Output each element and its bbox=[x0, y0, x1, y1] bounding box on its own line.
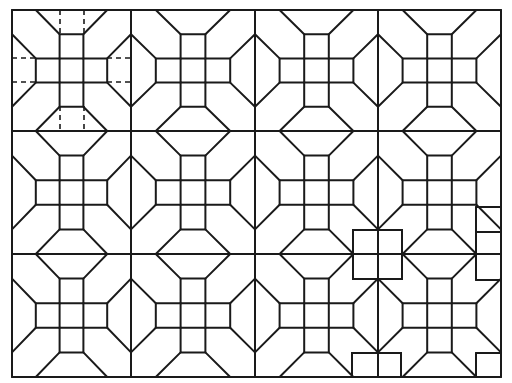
diagonal-line bbox=[83, 10, 107, 34]
diagonal-line bbox=[452, 352, 477, 377]
cross-shape bbox=[280, 34, 354, 107]
diagonal-line bbox=[476, 205, 501, 230]
diagonal-line bbox=[353, 34, 378, 58]
diagonal-line bbox=[83, 107, 107, 131]
diagonal-line bbox=[378, 156, 403, 181]
diagonal-line bbox=[131, 328, 156, 353]
diagonal-line bbox=[255, 205, 280, 230]
diagonal-line bbox=[403, 352, 428, 377]
diagonal-line bbox=[107, 34, 131, 58]
diagonal-line bbox=[36, 107, 60, 131]
tile-cell bbox=[255, 131, 378, 254]
diagonal-line bbox=[476, 279, 501, 304]
diagonal-line bbox=[476, 34, 501, 58]
cross-shape bbox=[403, 34, 477, 107]
tile-cell bbox=[12, 10, 131, 131]
cross-shape bbox=[156, 34, 230, 107]
diagonal-line bbox=[12, 83, 36, 107]
diagonal-line bbox=[378, 34, 403, 58]
diagonal-line bbox=[353, 205, 378, 230]
diagonal-line bbox=[280, 254, 305, 279]
diagonal-line bbox=[403, 10, 428, 34]
cross-shape bbox=[280, 156, 354, 230]
diagonal-line bbox=[12, 328, 36, 353]
diagonal-line bbox=[83, 131, 107, 156]
cross-shape bbox=[403, 279, 477, 353]
diagonal-line bbox=[378, 83, 403, 107]
diagonal-line bbox=[131, 205, 156, 230]
cross-shape bbox=[36, 279, 107, 353]
diagonal-line bbox=[205, 254, 230, 279]
diagonal-line bbox=[280, 229, 305, 254]
diagonal-line bbox=[255, 279, 280, 304]
diagonal-line bbox=[12, 156, 36, 181]
cross-shape bbox=[280, 279, 354, 353]
diagonal-line bbox=[131, 156, 156, 181]
tile-cell bbox=[12, 254, 131, 377]
diagonal-line bbox=[378, 328, 403, 353]
diagonal-line bbox=[230, 279, 255, 304]
diagonal-line bbox=[156, 107, 181, 131]
diagonal-line bbox=[36, 10, 60, 34]
tile-cell bbox=[378, 131, 501, 254]
diagonal-line bbox=[403, 107, 428, 131]
tile-cell bbox=[255, 254, 378, 377]
extra-square bbox=[352, 353, 401, 377]
tile-cell bbox=[378, 254, 501, 377]
diagonal-line bbox=[329, 107, 354, 131]
diagonal-line bbox=[280, 131, 305, 156]
diagonal-line bbox=[329, 229, 354, 254]
diagonal-line bbox=[83, 254, 107, 279]
diagonal-line bbox=[255, 328, 280, 353]
diagonal-line bbox=[36, 352, 60, 377]
diagonal-line bbox=[353, 83, 378, 107]
diagonal-line bbox=[476, 156, 501, 181]
diagonal-line bbox=[12, 205, 36, 230]
diagonal-line bbox=[353, 279, 378, 304]
cross-shape bbox=[36, 156, 107, 230]
diagonal-line bbox=[230, 328, 255, 353]
diagonal-line bbox=[280, 352, 305, 377]
diagonal-line bbox=[107, 156, 131, 181]
tile-cell bbox=[131, 131, 255, 254]
tile-cell bbox=[12, 131, 131, 254]
diagonal-line bbox=[403, 254, 428, 279]
cross-motifs bbox=[12, 10, 501, 377]
diagonal-line bbox=[230, 34, 255, 58]
diagonal-line bbox=[452, 229, 477, 254]
diagonal-line bbox=[280, 10, 305, 34]
dashed-guide-lines bbox=[12, 10, 131, 131]
diagonal-line bbox=[156, 131, 181, 156]
diagonal-line bbox=[131, 279, 156, 304]
diagonal-line bbox=[205, 107, 230, 131]
diagonal-line bbox=[378, 205, 403, 230]
diagonal-line bbox=[36, 254, 60, 279]
diagonal-line bbox=[107, 205, 131, 230]
diagonal-line bbox=[403, 229, 428, 254]
diagonal-line bbox=[255, 34, 280, 58]
diagonal-line bbox=[107, 83, 131, 107]
diagonal-line bbox=[452, 107, 477, 131]
diagonal-line bbox=[205, 229, 230, 254]
diagonal-line bbox=[403, 131, 428, 156]
diagonal-line bbox=[156, 352, 181, 377]
diagonal-line bbox=[452, 131, 477, 156]
cross-shape bbox=[156, 279, 230, 353]
diagonal-line bbox=[156, 229, 181, 254]
diagonal-line bbox=[280, 107, 305, 131]
diagonal-line bbox=[476, 328, 501, 353]
diagonal-line bbox=[452, 10, 477, 34]
diagonal-line bbox=[353, 156, 378, 181]
diagonal-line bbox=[255, 83, 280, 107]
diagonal-line bbox=[107, 279, 131, 304]
tile-cell bbox=[255, 10, 378, 131]
tile-cell bbox=[131, 10, 255, 131]
diagonal-line bbox=[12, 279, 36, 304]
diagonal-line bbox=[205, 10, 230, 34]
diagonal-line bbox=[230, 83, 255, 107]
cross-shape bbox=[403, 156, 477, 230]
diagonal-line bbox=[12, 34, 36, 58]
diagonal-line bbox=[131, 83, 156, 107]
diagonal-line bbox=[329, 131, 354, 156]
diagonal-line bbox=[329, 352, 354, 377]
